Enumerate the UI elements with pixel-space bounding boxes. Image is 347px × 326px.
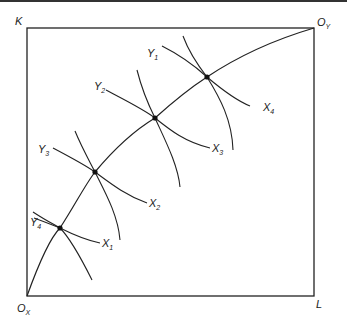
isoquant-y1 [183,36,233,150]
label-origin-x: OX [17,302,31,316]
isoquant-y2 [137,70,180,187]
label-origin-y: OY [317,16,332,30]
edgeworth-box [27,28,314,296]
label-y4: Y4 [30,216,41,230]
label-y2: Y2 [94,80,105,94]
label-y3: Y3 [38,143,49,157]
isoquant-y4 [34,218,92,280]
tangency-point-3 [152,115,157,120]
label-x1: X1 [101,237,113,251]
isoquant-x2 [53,148,147,203]
label-l: L [316,298,322,310]
label-x3: X3 [211,142,223,156]
edgeworth-box-diagram: K L OX OY X1 X2 X3 X4 Y4 Y3 Y2 Y1 [0,0,347,326]
label-x4: X4 [262,101,274,115]
label-x2: X2 [148,197,160,211]
tangency-point-1 [57,225,62,230]
label-k: K [15,15,23,27]
label-y1: Y1 [147,47,158,61]
contract-curve [27,28,314,296]
tangency-point-2 [92,169,97,174]
tangency-point-4 [204,74,209,79]
isoquant-x3 [106,90,210,148]
